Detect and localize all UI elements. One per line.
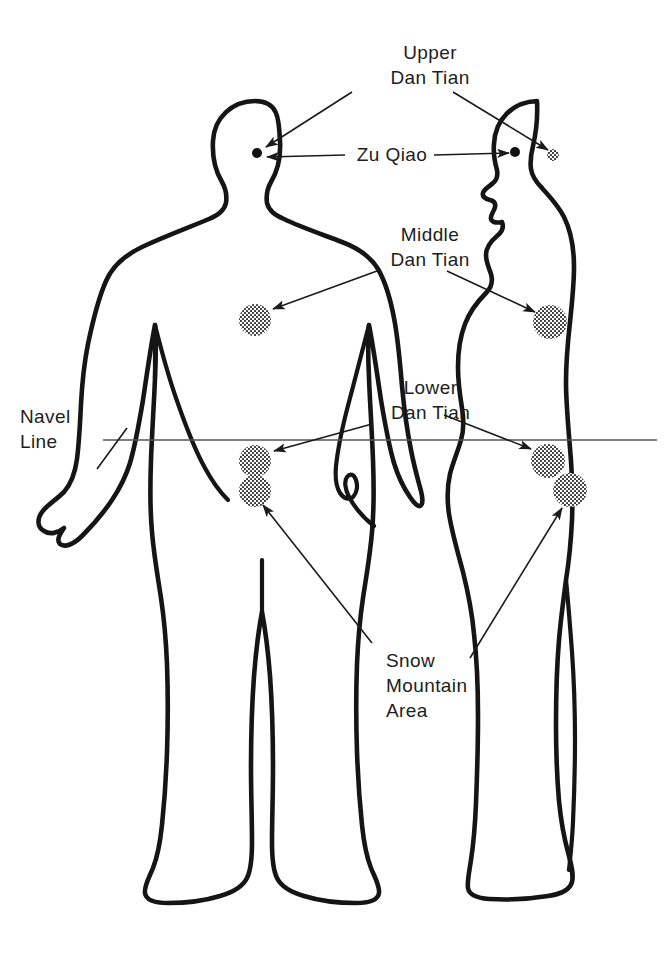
label-upper-dan-tian: Upper Dan Tian [355,40,505,90]
front-upper-dan-tian-dot [252,148,262,158]
front-snow-mountain-marker [239,475,271,507]
label-snow-mountain-area: Snow Mountain Area [386,648,526,723]
dan-tian-diagram: Upper Dan Tian Zu Qiao Middle Dan Tian L… [0,0,667,962]
side-middle-dan-tian-marker [533,305,567,339]
label-navel-line: Navel Line [20,404,110,454]
side-lower-dan-tian-marker [531,444,565,478]
side-view-figure [448,101,575,899]
side-zu-qiao-dot [510,147,520,157]
label-middle-dan-tian: Middle Dan Tian [370,222,490,272]
figures-canvas [0,0,667,962]
front-lower-dan-tian-marker [239,445,271,477]
front-middle-dan-tian-marker [239,304,271,336]
label-zu-qiao: Zu Qiao [347,142,437,167]
front-view-figure [38,101,422,903]
side-rear-leg-contour [566,580,575,870]
side-body-outline [448,101,574,899]
side-snow-mountain-marker [553,473,587,507]
label-lower-dan-tian: Lower Dan Tian [373,375,488,425]
side-upper-dan-tian-marker [547,149,559,161]
front-body-outline [38,101,422,903]
